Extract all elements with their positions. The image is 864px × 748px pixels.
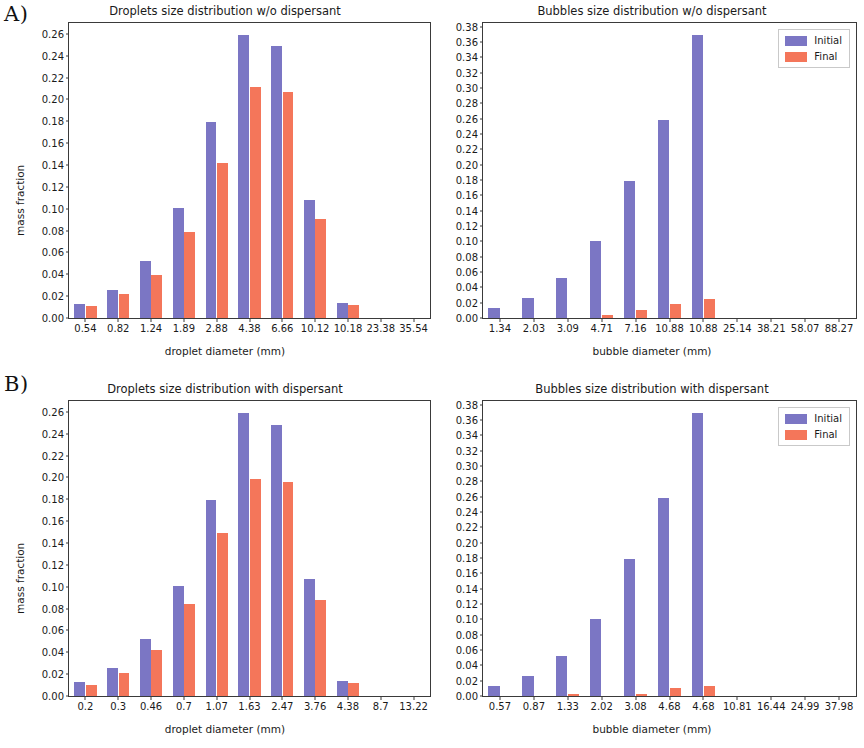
chart-title: Bubbles size distribution with dispersan…	[440, 382, 864, 396]
legend-swatch-initial-icon	[785, 414, 807, 424]
x-tick-label: 0.46	[140, 701, 162, 712]
legend-row[interactable]: Initial	[785, 35, 842, 46]
y-tick-label: 0.14	[456, 205, 483, 216]
bar-initial	[107, 290, 118, 318]
x-tick-mark	[533, 318, 534, 322]
legend-row[interactable]: Final	[785, 51, 842, 62]
y-tick-label: 0.30	[456, 83, 483, 94]
bar-initial	[304, 579, 315, 696]
bar-final	[670, 304, 681, 318]
x-tick-mark	[216, 696, 217, 700]
bar-initial	[488, 686, 499, 696]
x-tick-label: 24.99	[791, 701, 820, 712]
y-tick-label: 0.08	[42, 225, 69, 236]
y-tick-label: 0.30	[456, 461, 483, 472]
plot-area: 0.000.020.040.060.080.100.120.140.160.18…	[68, 22, 431, 319]
y-tick-label: 0.16	[456, 190, 483, 201]
y-tick-label: 0.12	[456, 221, 483, 232]
y-tick-label: 0.10	[42, 581, 69, 592]
x-tick-mark	[805, 696, 806, 700]
legend: InitialFinal	[778, 29, 850, 68]
x-tick-mark	[413, 318, 414, 322]
x-tick-label: 4.68	[692, 701, 714, 712]
x-tick-mark	[839, 318, 840, 322]
plot-area: 0.000.020.040.060.080.100.120.140.160.18…	[68, 400, 431, 697]
legend-label: Final	[814, 429, 837, 440]
x-tick-mark	[413, 696, 414, 700]
bar-initial	[206, 500, 217, 696]
y-tick-label: 0.12	[42, 181, 69, 192]
bar-final	[348, 683, 359, 696]
x-tick-mark	[635, 318, 636, 322]
x-tick-mark	[669, 318, 670, 322]
bar-initial	[238, 35, 249, 318]
y-tick-label: 0.22	[456, 144, 483, 155]
bar-final	[217, 533, 228, 696]
y-tick-label: 0.20	[42, 472, 69, 483]
x-tick-mark	[85, 696, 86, 700]
legend-row[interactable]: Initial	[785, 413, 842, 424]
bar-initial	[74, 304, 85, 318]
bar-initial	[140, 639, 151, 696]
x-tick-mark	[771, 696, 772, 700]
x-tick-mark	[499, 318, 500, 322]
x-tick-label: 10.18	[334, 323, 363, 334]
y-tick-label: 0.02	[456, 675, 483, 686]
bar-initial	[556, 656, 567, 696]
x-tick-label: 0.82	[107, 323, 129, 334]
x-tick-mark	[216, 318, 217, 322]
bar-final	[151, 650, 162, 696]
bar-final	[119, 294, 130, 318]
y-tick-label: 0.36	[456, 37, 483, 48]
y-tick-label: 0.02	[42, 291, 69, 302]
y-tick-label: 0.22	[42, 72, 69, 83]
x-tick-mark	[347, 696, 348, 700]
x-tick-label: 4.68	[658, 701, 680, 712]
x-tick-label: 1.34	[489, 323, 511, 334]
y-tick-label: 0.36	[456, 415, 483, 426]
x-tick-label: 4.71	[591, 323, 613, 334]
x-tick-label: 23.38	[366, 323, 395, 334]
bar-initial	[590, 619, 601, 696]
x-tick-mark	[118, 318, 119, 322]
bar-initial	[206, 122, 217, 318]
x-tick-label: 1.89	[173, 323, 195, 334]
x-tick-label: 88.27	[825, 323, 854, 334]
x-tick-label: 16.44	[757, 701, 786, 712]
bar-initial	[692, 35, 703, 319]
x-tick-label: 3.76	[304, 701, 326, 712]
x-tick-mark	[183, 696, 184, 700]
bar-initial	[624, 181, 635, 318]
plot-inner: 0.000.020.040.060.080.100.120.140.160.18…	[69, 23, 430, 318]
y-tick-label: 0.34	[456, 430, 483, 441]
y-tick-label: 0.24	[42, 428, 69, 439]
x-axis-label: droplet diameter (mm)	[0, 345, 450, 357]
bar-final	[704, 686, 715, 696]
bar-initial	[271, 425, 282, 696]
x-tick-label: 1.63	[238, 701, 260, 712]
figure-root: A) B) Droplets size distribution w/o dis…	[0, 0, 864, 748]
x-tick-mark	[380, 318, 381, 322]
y-tick-label: 0.00	[42, 313, 69, 324]
x-tick-mark	[151, 696, 152, 700]
x-tick-mark	[669, 696, 670, 700]
x-tick-mark	[85, 318, 86, 322]
y-axis-label: mass fraction	[14, 543, 26, 614]
y-tick-label: 0.00	[456, 313, 483, 324]
chart-bubbles-with-dispersant: Bubbles size distribution with dispersan…	[440, 370, 864, 748]
y-tick-label: 0.00	[456, 691, 483, 702]
bar-initial	[238, 413, 249, 696]
y-tick-label: 0.32	[456, 67, 483, 78]
y-tick-label: 0.34	[456, 52, 483, 63]
x-tick-mark	[315, 318, 316, 322]
bar-final	[250, 87, 261, 318]
y-tick-label: 0.14	[42, 538, 69, 549]
legend-row[interactable]: Final	[785, 429, 842, 440]
bar-final	[568, 694, 579, 696]
y-tick-label: 0.18	[456, 553, 483, 564]
x-tick-mark	[737, 696, 738, 700]
y-tick-label: 0.06	[456, 267, 483, 278]
y-tick-label: 0.24	[456, 129, 483, 140]
bar-initial	[304, 200, 315, 318]
bar-final	[184, 232, 195, 318]
